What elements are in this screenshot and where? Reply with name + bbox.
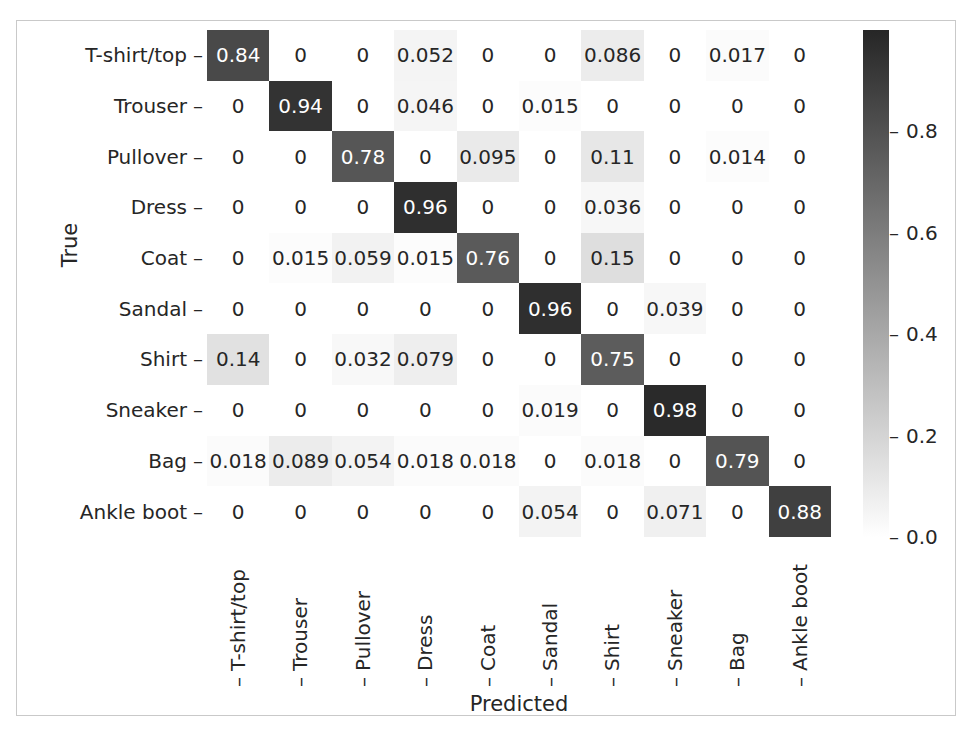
x-tick-rotated: –Pullover — [332, 537, 394, 687]
heatmap-cell: 0.039 — [644, 283, 706, 334]
colorbar-gradient — [863, 30, 889, 537]
heatmap-cell: 0 — [207, 385, 269, 436]
heatmap-cell: 0.76 — [457, 233, 519, 284]
x-tick-rotated: –Sneaker — [644, 537, 706, 687]
heatmap-cell: 0 — [269, 283, 331, 334]
heatmap-cell: 0 — [581, 486, 643, 537]
heatmap-cell: 0 — [769, 182, 831, 233]
heatmap-cell: 0 — [207, 182, 269, 233]
heatmap-cell: 0.11 — [581, 131, 643, 182]
heatmap-cell: 0.84 — [207, 30, 269, 81]
heatmap-cell: 0.14 — [207, 334, 269, 385]
heatmap-cell: 0 — [457, 182, 519, 233]
heatmap-cell: 0 — [706, 233, 768, 284]
heatmap-cell: 0.017 — [706, 30, 768, 81]
x-tick-rotated: –Dress — [394, 537, 456, 687]
heatmap-cell: 0 — [644, 436, 706, 487]
colorbar-tick-labels: –0.8–0.6–0.4–0.2–0.0 — [889, 30, 959, 537]
heatmap-cell: 0.98 — [644, 385, 706, 436]
heatmap-cell: 0.054 — [519, 486, 581, 537]
heatmap-cell: 0.036 — [581, 182, 643, 233]
y-tick-6: Shirt– — [0, 334, 207, 385]
heatmap-cell: 0 — [394, 486, 456, 537]
x-tick-rotated: –Bag — [706, 537, 768, 687]
x-tick-3: –Dress — [394, 537, 456, 687]
heatmap-cell: 0 — [769, 81, 831, 132]
x-tick-dash: – — [663, 677, 687, 687]
heatmap-cell: 0.089 — [269, 436, 331, 487]
y-tick-dash: – — [193, 297, 203, 321]
heatmap-cell: 0 — [644, 334, 706, 385]
heatmap-cell: 0.88 — [769, 486, 831, 537]
x-tick-4: –Coat — [457, 537, 519, 687]
y-tick-label: Trouser — [114, 94, 187, 118]
heatmap-cell: 0.014 — [706, 131, 768, 182]
heatmap-cell: 0.052 — [394, 30, 456, 81]
x-tick-6: –Shirt — [581, 537, 643, 687]
heatmap-cell: 0 — [269, 30, 331, 81]
x-tick-1: –Trouser — [269, 537, 331, 687]
heatmap-row: 0.84000.052000.08600.0170 — [207, 30, 831, 81]
heatmap-cell: 0 — [581, 283, 643, 334]
heatmap-cell: 0 — [519, 334, 581, 385]
y-tick-7: Sneaker– — [0, 385, 207, 436]
heatmap-cell: 0 — [519, 182, 581, 233]
x-tick-8: –Bag — [706, 537, 768, 687]
x-tick-rotated: –Coat — [457, 537, 519, 687]
heatmap-cell: 0 — [519, 131, 581, 182]
heatmap-cell: 0 — [644, 30, 706, 81]
x-tick-dash: – — [226, 677, 250, 687]
x-tick-label: Bag — [725, 632, 749, 671]
x-tick-label: Pullover — [351, 591, 375, 671]
heatmap-row: 00.0150.0590.0150.7600.15000 — [207, 233, 831, 284]
y-tick-label: Ankle boot — [80, 500, 187, 524]
colorbar-tick-dash: – — [889, 221, 899, 245]
heatmap-row: 000000.05400.07100.88 — [207, 486, 831, 537]
x-tick-0: –T-shirt/top — [207, 537, 269, 687]
x-tick-rotated: –Shirt — [581, 537, 643, 687]
y-tick-8: Bag– — [0, 436, 207, 487]
x-tick-rotated: –Trouser — [269, 537, 331, 687]
y-tick-label: Coat — [141, 246, 187, 270]
heatmap-grid: 0.84000.052000.08600.017000.9400.04600.0… — [207, 30, 831, 537]
heatmap-row: 0000.96000.036000 — [207, 182, 831, 233]
x-tick-label: Ankle boot — [788, 564, 812, 671]
y-tick-0: T-shirt/top– — [0, 30, 207, 81]
heatmap-cell: 0.086 — [581, 30, 643, 81]
heatmap-cell: 0.96 — [394, 182, 456, 233]
y-tick-label: T-shirt/top — [85, 43, 187, 67]
x-tick-label: Shirt — [601, 624, 625, 671]
y-tick-label: Bag — [148, 449, 187, 473]
colorbar-tick-dash: – — [889, 424, 899, 448]
heatmap-cell: 0 — [769, 131, 831, 182]
y-tick-dash: – — [193, 145, 203, 169]
x-axis-tick-labels: –T-shirt/top–Trouser–Pullover–Dress–Coat… — [207, 537, 831, 687]
heatmap-cell: 0.018 — [207, 436, 269, 487]
heatmap-cell: 0 — [394, 283, 456, 334]
x-tick-9: –Ankle boot — [769, 537, 831, 687]
x-tick-7: –Sneaker — [644, 537, 706, 687]
x-tick-dash: – — [725, 677, 749, 687]
x-tick-dash: – — [413, 677, 437, 687]
y-tick-dash: – — [193, 43, 203, 67]
y-tick-label: Dress — [131, 195, 187, 219]
colorbar-tick-label: 0.6 — [906, 221, 938, 245]
x-tick-label: Coat — [476, 625, 500, 671]
y-tick-label: Pullover — [107, 145, 187, 169]
heatmap-cell: 0.94 — [269, 81, 331, 132]
heatmap-cell: 0 — [394, 131, 456, 182]
heatmap-cell: 0 — [769, 436, 831, 487]
x-tick-dash: – — [351, 677, 375, 687]
heatmap-cell: 0 — [269, 385, 331, 436]
y-axis-tick-labels: T-shirt/top–Trouser–Pullover–Dress–Coat–… — [0, 30, 207, 537]
heatmap-cell: 0 — [644, 81, 706, 132]
colorbar-tick-2: –0.4 — [889, 322, 938, 346]
heatmap-cell: 0 — [332, 283, 394, 334]
heatmap-cell: 0.015 — [394, 233, 456, 284]
x-tick-rotated: –Ankle boot — [769, 537, 831, 687]
heatmap-cell: 0 — [207, 233, 269, 284]
heatmap-cell: 0 — [769, 283, 831, 334]
x-tick-dash: – — [788, 677, 812, 687]
heatmap-cell: 0 — [706, 182, 768, 233]
heatmap-cell: 0 — [332, 81, 394, 132]
